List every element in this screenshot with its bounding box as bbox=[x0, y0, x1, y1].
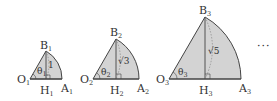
label-a2: A2 bbox=[136, 82, 149, 96]
continuation-ellipsis: ··· bbox=[257, 40, 271, 53]
label-o1: O1 bbox=[17, 73, 30, 87]
sector-figure-2: B2 O2 H2 A2 θ2 √3 bbox=[80, 26, 149, 98]
label-h3: H3 bbox=[199, 84, 213, 98]
label-b1: B1 bbox=[40, 39, 52, 53]
sector-figure-1: B1 O1 H1 A1 θ1 1 bbox=[17, 39, 73, 98]
height-label-2: √3 bbox=[118, 56, 130, 66]
sector-figure-3: B3 O3 H3 A3 θ3 √5 bbox=[156, 4, 251, 98]
label-h1: H1 bbox=[40, 84, 54, 98]
label-o3: O3 bbox=[156, 73, 169, 87]
label-a1: A1 bbox=[60, 82, 73, 96]
height-label-1: 1 bbox=[48, 60, 54, 70]
label-o2: O2 bbox=[80, 73, 93, 87]
label-b3: B3 bbox=[199, 4, 211, 18]
label-b2: B2 bbox=[110, 26, 122, 40]
height-label-3: √5 bbox=[208, 46, 220, 56]
label-h2: H2 bbox=[110, 84, 124, 98]
label-a3: A3 bbox=[238, 82, 251, 96]
sector-sequence-diagram: B1 O1 H1 A1 θ1 1 B2 O2 H2 A2 θ2 √3 B3 O3… bbox=[0, 0, 277, 101]
